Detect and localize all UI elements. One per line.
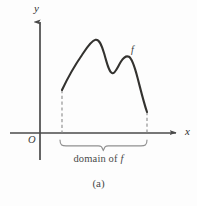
- figure-canvas: [0, 0, 197, 206]
- domain-caption-prefix: domain of: [73, 153, 117, 164]
- function-label-f: f: [131, 45, 134, 55]
- domain-caption-function: f: [120, 153, 123, 164]
- origin-label: O: [28, 135, 36, 146]
- figure-panel-a: y x O f domain of f (a): [0, 0, 197, 206]
- domain-brace: [60, 140, 147, 151]
- y-axis-label: y: [34, 3, 39, 14]
- domain-caption: domain of f: [0, 153, 197, 164]
- panel-caption: (a): [0, 177, 197, 189]
- function-curve-f: [62, 40, 147, 112]
- x-axis-label: x: [185, 126, 190, 137]
